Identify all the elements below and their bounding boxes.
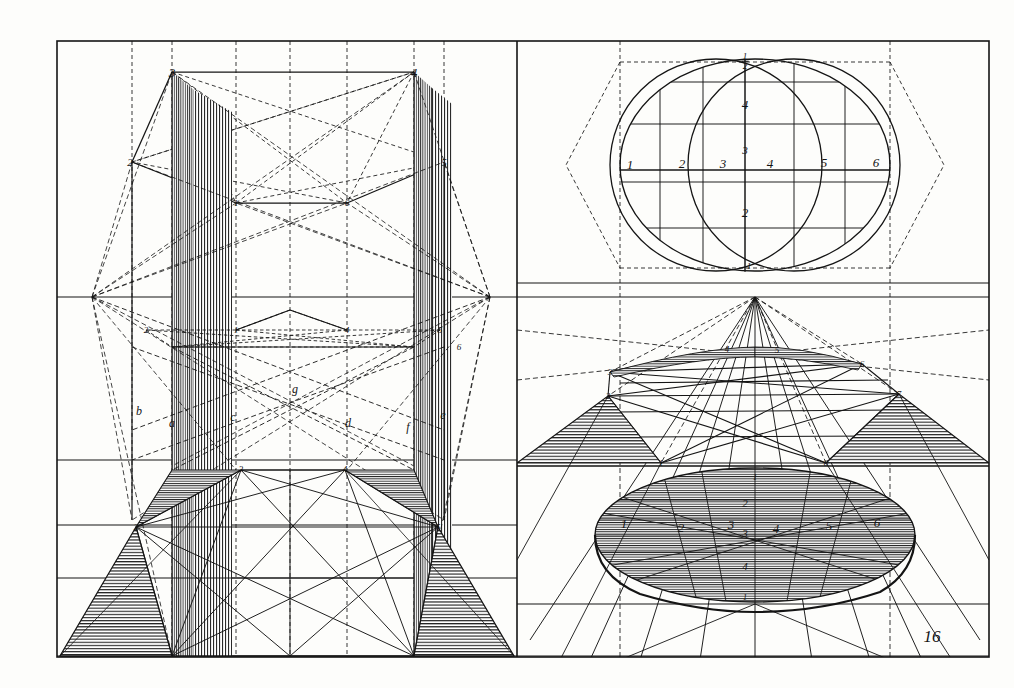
label-tr-3: 3 [720, 157, 727, 170]
label-bl-3-base: 3 [239, 465, 244, 474]
label-tl-6: 6 [345, 199, 350, 208]
label-bl-5-base: 5 [436, 523, 441, 532]
label-bl-letter-b: b [136, 405, 142, 417]
label-bl-2-base: 2 [134, 523, 139, 532]
label-tr-2: 2 [679, 157, 686, 170]
label-tl-4: 4 [411, 66, 418, 79]
upper-plate-shaded-caps [610, 347, 862, 377]
label-br-4-disc-row: 4 [773, 522, 780, 535]
label-tl-2: 2 [127, 157, 133, 168]
label-br-2-grid: 2 [606, 392, 611, 401]
label-tr-6: 6 [873, 156, 880, 169]
label-br-3-axis: 3 [742, 528, 748, 539]
label-br-4-grid: 4 [725, 345, 730, 354]
label-bl-letter-a: a [169, 417, 175, 429]
label-br-1-grid: 1 [659, 459, 664, 468]
label-br-8-grid: 8 [824, 459, 829, 468]
label-br-5-grid: 5 [775, 346, 780, 355]
label-tr-4-top: 4 [742, 98, 749, 111]
label-br-3-disc-row: 3 [728, 518, 735, 531]
prism-left-face-hatch [172, 72, 232, 656]
label-br-7-grid: 7 [897, 390, 902, 399]
label-br-1-disc-top: 1 [753, 473, 758, 482]
plate-number: 16 [924, 628, 941, 645]
engraving-plate: 3 4 2 5 1 6 2 1 4 5 6 b a c g d f e 3 4 … [0, 0, 1014, 688]
label-bl-letter-d: d [345, 417, 351, 429]
label-bl-letter-c: c [230, 411, 235, 423]
label-br-5-disc-row: 5 [826, 519, 833, 532]
label-tl-1: 1 [234, 199, 239, 208]
label-tr-half-fraction: 1 2 [742, 52, 749, 72]
label-br-2-disc: 2 [742, 498, 748, 509]
label-tr-3-axis: 3 [742, 145, 748, 156]
label-bl-letter-g: g [292, 383, 298, 395]
plate-artwork [0, 0, 1014, 688]
fraction-denominator: 2 [742, 62, 749, 71]
label-br-1-disc-bottom: 1 [743, 593, 748, 602]
label-tl-5: 5 [441, 157, 447, 168]
plan-grid [600, 45, 915, 290]
label-bl-2-upper: 2 [144, 326, 149, 335]
plan-overlapping-circles [610, 59, 900, 271]
label-bl-letter-f: f [406, 421, 409, 433]
label-br-4-axis: 4 [742, 561, 748, 572]
label-bl-4-base: 4 [343, 465, 348, 474]
label-tl-3: 3 [169, 66, 176, 79]
label-br-6-disc-row: 6 [874, 516, 881, 529]
label-br-6-grid: 6 [860, 360, 865, 369]
label-br-1-disc: 1 [621, 517, 628, 530]
label-bl-5-upper: 5 [438, 326, 443, 335]
label-tr-1: 1 [627, 158, 634, 171]
plan-outer-ellipse [620, 59, 890, 271]
label-bl-letter-e: e [440, 409, 445, 421]
label-tr-1-bottom: 1 [747, 262, 752, 271]
label-bl-4-upper: 4 [345, 326, 350, 335]
label-bl-1-upper: 1 [234, 326, 239, 335]
label-br-3-grid: 3 [608, 368, 613, 377]
label-br-2-disc-row: 2 [678, 521, 685, 534]
label-tr-5: 5 [821, 156, 828, 169]
label-tr-2-axis: 2 [742, 206, 749, 219]
label-tr-4: 4 [767, 157, 774, 170]
label-bl-6-upper: 6 [457, 343, 462, 352]
